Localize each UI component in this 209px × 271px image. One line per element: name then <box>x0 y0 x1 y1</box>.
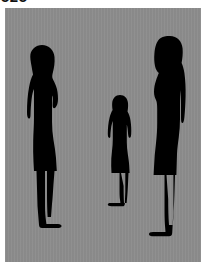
silhouette-photo-panel <box>5 8 201 262</box>
figure-adult-woman-left <box>18 44 70 229</box>
adult-woman-left-silhouette-icon <box>18 44 70 229</box>
screenshot-root: 525 <box>0 0 209 271</box>
figure-adult-woman-right <box>143 35 193 239</box>
child-silhouette-icon <box>103 94 137 207</box>
clipped-caption-text: 525 <box>1 0 28 5</box>
figure-child-center <box>103 94 137 207</box>
adult-woman-right-silhouette-icon <box>143 35 193 239</box>
